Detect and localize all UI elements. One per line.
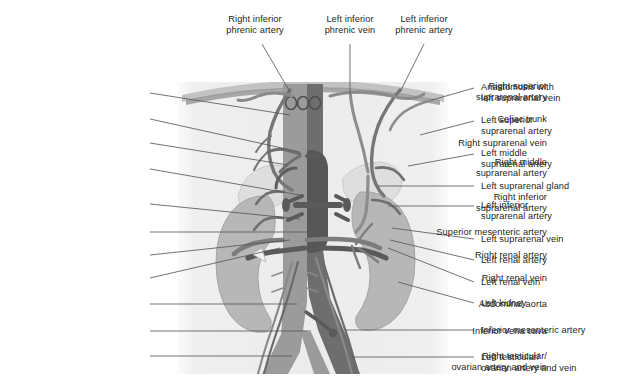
label-line: Left kidney xyxy=(481,298,526,309)
label-left-superior-suprarenal-artery: Left superiorsuprarenal artery xyxy=(481,115,552,138)
label-line: suprarenal artery xyxy=(0,168,547,179)
label-line: Right suprarenal vein xyxy=(0,138,547,149)
label-line: Left superior xyxy=(481,115,552,126)
label-line: Left inferior xyxy=(481,200,552,211)
label-right-renal-artery: Right renal artery xyxy=(0,250,547,261)
label-celiac-trunk: Celiac trunk xyxy=(0,114,547,125)
label-line: Right renal vein xyxy=(0,273,547,284)
label-line: Celiac trunk xyxy=(0,114,547,125)
label-right-middle-suprarenal-artery: Right middlesuprarenal artery xyxy=(0,157,547,180)
label-right-testicular-ovarian-artery-and-vein: Right testicular/ovarian artery and vein xyxy=(0,351,547,374)
label-line: suprarenal artery xyxy=(0,203,547,214)
label-inferior-vena-cava: Inferior vena cava xyxy=(0,326,547,337)
label-line: Superior mesenteric artery xyxy=(0,227,547,238)
label-left-renal-vein: Left renal vein xyxy=(481,277,540,288)
label-left-inferior-suprarenal-artery: Left inferiorsuprarenal artery xyxy=(481,200,552,223)
label-right-suprarenal-vein: Right suprarenal vein xyxy=(0,138,547,149)
label-line: Inferior mesenteric artery xyxy=(481,325,586,336)
label-line: Left suprarenal gland xyxy=(481,181,569,192)
label-line: Right inferior xyxy=(0,192,547,203)
label-left-renal-artery: Left renal artery xyxy=(481,255,547,266)
label-superior-mesenteric-artery: Superior mesenteric artery xyxy=(0,227,547,238)
label-line: Left middle xyxy=(481,148,552,159)
label-line: Left testicular/ xyxy=(481,352,577,363)
label-line: left suprarenal vein xyxy=(481,93,560,104)
label-right-superior-suprarenal-artery: Right superiorsuprarenal artery xyxy=(0,81,547,104)
label-left-kidney: Left kidney xyxy=(481,298,526,309)
label-left-middle-suprarenal-artery: Left middlesuprarenal artery xyxy=(481,148,552,171)
label-line: Right renal artery xyxy=(0,250,547,261)
label-right-inferior-suprarenal-artery: Right inferiorsuprarenal artery xyxy=(0,192,547,215)
label-line: Right superior xyxy=(0,81,547,92)
label-line: Abdominal aorta xyxy=(0,299,547,310)
label-left-testicular-ovarian-artery-and-vein: Left testicular/ovarian artery and vein xyxy=(481,352,577,375)
label-line: ovarian artery and vein xyxy=(0,362,547,373)
label-line: Left renal artery xyxy=(481,255,547,266)
label-left-inferior-phrenic-artery: Left inferiorphrenic artery xyxy=(372,14,476,37)
label-line: Right testicular/ xyxy=(0,351,547,362)
label-line: suprarenal artery xyxy=(481,211,552,222)
label-line: suprarenal artery xyxy=(481,126,552,137)
label-line: phrenic artery xyxy=(200,25,310,36)
label-left-suprarenal-vein: Left suprarenal vein xyxy=(481,234,564,245)
label-line: Right inferior xyxy=(200,14,310,25)
label-line: Left inferior xyxy=(372,14,476,25)
label-line: Inferior vena cava xyxy=(0,326,547,337)
label-line: Anastomosis with xyxy=(481,82,560,93)
label-abdominal-aorta: Abdominal aorta xyxy=(0,299,547,310)
label-line: suprarenal artery xyxy=(0,92,547,103)
label-left-suprarenal-gland: Left suprarenal gland xyxy=(481,181,569,192)
label-line: Left suprarenal vein xyxy=(481,234,564,245)
label-inferior-mesenteric-artery: Inferior mesenteric artery xyxy=(481,325,586,336)
label-line: Left renal vein xyxy=(481,277,540,288)
label-line: Right middle xyxy=(0,157,547,168)
label-right-renal-vein: Right renal vein xyxy=(0,273,547,284)
label-line: phrenic artery xyxy=(372,25,476,36)
label-line: suprarenal artery xyxy=(481,159,552,170)
label-anastomosis-with-left-suprarenal-vein: Anastomosis withleft suprarenal vein xyxy=(481,82,560,105)
label-right-inferior-phrenic-artery: Right inferiorphrenic artery xyxy=(200,14,310,37)
anatomy-figure-page: Right inferiorphrenic arteryLeft inferio… xyxy=(0,0,624,392)
label-line: ovarian artery and vein xyxy=(481,363,577,374)
